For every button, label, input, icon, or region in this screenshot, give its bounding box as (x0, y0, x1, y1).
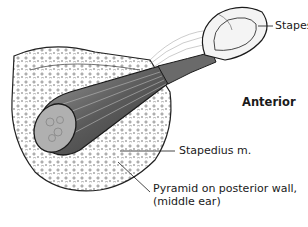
pyramid-label-line2: (middle ear) (153, 196, 221, 208)
anatomy-illustration: Stapes Anterior Stapedius m. Pyramid on … (0, 0, 308, 227)
anterior-label: Anterior (242, 96, 296, 108)
stapes-label: Stapes (275, 20, 308, 32)
stapes-shape (202, 7, 267, 60)
pyramid-label-line1: Pyramid on posterior wall, (153, 183, 297, 195)
stapedius-label: Stapedius m. (179, 145, 251, 157)
